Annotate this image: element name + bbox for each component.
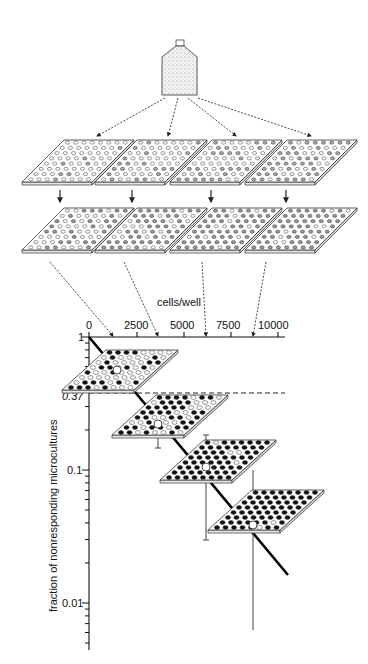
well [288, 209, 292, 212]
well [325, 230, 329, 233]
well [263, 141, 267, 144]
well [94, 230, 98, 233]
well [104, 361, 109, 365]
well [213, 441, 218, 445]
well [213, 209, 217, 212]
well [115, 141, 119, 144]
well [239, 157, 243, 160]
x-tick-2500: 2500 [124, 319, 148, 331]
well [68, 214, 72, 217]
x-tick-labels: 0 2500 5000 7500 10000 [86, 319, 289, 331]
well [268, 516, 273, 520]
well [250, 446, 255, 450]
well [297, 157, 301, 160]
y-tick-1: 1 [78, 331, 84, 343]
well [123, 173, 127, 176]
well [257, 526, 262, 530]
well [242, 446, 247, 450]
well [228, 235, 232, 238]
well [172, 225, 176, 228]
well [70, 246, 74, 249]
well [188, 141, 192, 144]
well [149, 411, 154, 415]
plate [208, 490, 324, 533]
well [292, 162, 296, 165]
well [107, 157, 111, 160]
well [282, 173, 286, 176]
well [96, 220, 100, 223]
well [276, 162, 280, 165]
well [186, 220, 190, 223]
well [204, 167, 208, 170]
well [104, 220, 108, 223]
well [145, 235, 149, 238]
well [303, 167, 307, 170]
well [118, 431, 123, 435]
well [80, 167, 84, 170]
well [312, 235, 316, 238]
well [187, 235, 191, 238]
limiting-dilution-figure: cells/well 0 2500 5000 7500 10000 1 0.37… [0, 0, 368, 664]
well [336, 220, 340, 223]
well [132, 351, 137, 355]
well [191, 396, 196, 400]
well [234, 246, 238, 249]
well [242, 461, 247, 465]
well [301, 501, 306, 505]
well [205, 406, 210, 410]
well [77, 214, 81, 217]
well [317, 162, 321, 165]
well [72, 167, 76, 170]
x-axis [89, 332, 285, 337]
well [230, 441, 235, 445]
well [134, 230, 138, 233]
well [86, 162, 90, 165]
well [105, 376, 110, 380]
well [91, 225, 95, 228]
well [216, 396, 221, 400]
well [197, 456, 202, 460]
well [110, 214, 114, 217]
x-tick-0: 0 [86, 319, 92, 331]
well [300, 230, 304, 233]
well [270, 167, 274, 170]
well [118, 146, 122, 149]
well [225, 162, 229, 165]
well [231, 241, 235, 244]
well [317, 230, 321, 233]
well [136, 371, 141, 375]
well [44, 162, 48, 165]
well [300, 214, 304, 217]
well [85, 146, 89, 149]
well [300, 162, 304, 165]
well [290, 241, 294, 244]
well [208, 146, 212, 149]
well [143, 416, 148, 420]
dispense-arrows [97, 98, 311, 136]
well [192, 162, 196, 165]
well [34, 241, 38, 244]
well [93, 146, 97, 149]
well [91, 157, 95, 160]
well [158, 351, 163, 355]
well [324, 146, 328, 149]
well [247, 225, 251, 228]
well [305, 141, 309, 144]
well [273, 225, 277, 228]
well [199, 396, 204, 400]
well [148, 241, 152, 244]
well [301, 178, 305, 181]
well [306, 157, 310, 160]
well [157, 411, 162, 415]
well [96, 152, 100, 155]
well [174, 146, 178, 149]
well [239, 456, 244, 460]
well [228, 220, 232, 223]
well [200, 411, 205, 415]
well [241, 146, 245, 149]
well [144, 356, 149, 360]
well [107, 141, 111, 144]
well [242, 516, 247, 520]
well [123, 141, 127, 144]
well [242, 501, 247, 505]
